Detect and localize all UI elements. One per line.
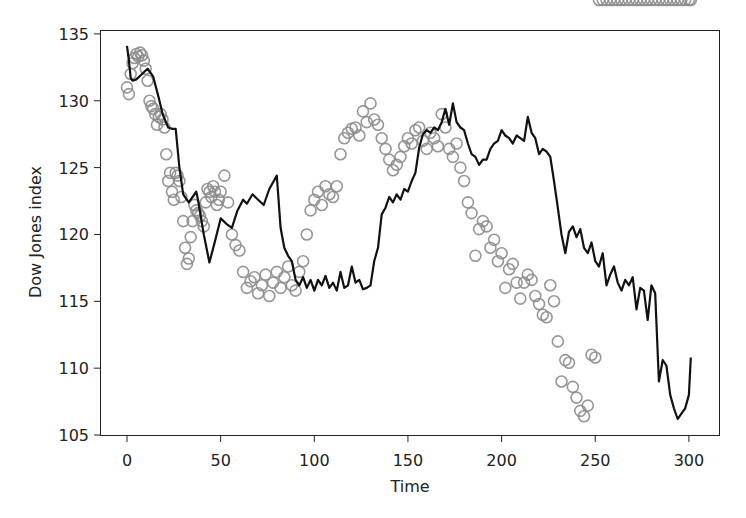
smoothed-line-path [127, 46, 691, 419]
observation-marker [123, 89, 134, 100]
x-axis-label: Time [389, 477, 429, 496]
x-axis: 050100150200250300 [122, 436, 704, 470]
observation-marker [470, 250, 481, 261]
smoothed-line [127, 46, 691, 419]
y-tick-label: 110 [58, 359, 89, 378]
observation-marker [219, 170, 230, 181]
observation-marker [552, 336, 563, 347]
observation-marker [515, 293, 526, 304]
observation-marker [271, 266, 282, 277]
observation-marker [564, 357, 575, 368]
observation-marker [567, 381, 578, 392]
observation-marker [335, 149, 346, 160]
observation-marker [380, 143, 391, 154]
observation-marker [185, 232, 196, 243]
observation-marker [264, 291, 275, 302]
observation-marker [560, 355, 571, 366]
observation-marker [590, 352, 601, 363]
x-tick-label: 50 [210, 451, 230, 470]
observation-marker [466, 208, 477, 219]
observation-marker [301, 229, 312, 240]
observation-marker [316, 200, 327, 211]
observation-marker [268, 277, 279, 288]
observation-marker [298, 256, 309, 267]
observation-marker [462, 197, 473, 208]
y-axis-label: Dow Jones index [26, 166, 45, 298]
observation-marker [455, 162, 466, 173]
y-tick-label: 105 [58, 426, 89, 445]
scatter-observations [122, 0, 697, 422]
observation-marker [459, 176, 470, 187]
observation-marker [376, 133, 387, 144]
observation-marker [549, 296, 560, 307]
line-chart: 050100150200250300 105110115120125130135… [0, 0, 746, 518]
observation-marker [545, 280, 556, 291]
x-tick-label: 0 [122, 451, 132, 470]
y-tick-label: 115 [58, 292, 89, 311]
observation-marker [586, 349, 597, 360]
observation-marker [275, 282, 286, 293]
observation-marker [331, 181, 342, 192]
observation-marker [361, 117, 372, 128]
x-tick-label: 250 [580, 451, 611, 470]
x-tick-label: 100 [299, 451, 330, 470]
observation-marker [168, 194, 179, 205]
observation-marker [500, 282, 511, 293]
observation-marker [541, 312, 552, 323]
observation-marker [238, 266, 249, 277]
y-tick-label: 130 [58, 92, 89, 111]
observation-marker [537, 309, 548, 320]
observation-marker [305, 205, 316, 216]
observation-marker [161, 149, 172, 160]
y-axis: 105110115120125130135 [58, 25, 100, 445]
observation-marker [582, 400, 593, 411]
observation-marker [328, 192, 339, 203]
observation-marker [384, 154, 395, 165]
observation-marker [122, 82, 133, 93]
observation-marker [556, 376, 567, 387]
y-tick-label: 120 [58, 225, 89, 244]
observation-marker [142, 75, 153, 86]
observation-marker [180, 242, 191, 253]
y-tick-label: 135 [58, 25, 89, 44]
x-tick-label: 200 [486, 451, 517, 470]
observation-marker [365, 98, 376, 109]
observation-marker [451, 138, 462, 149]
x-tick-label: 300 [674, 451, 705, 470]
y-tick-label: 125 [58, 159, 89, 178]
observation-marker [226, 229, 237, 240]
observation-marker [241, 282, 252, 293]
observation-marker [571, 392, 582, 403]
x-tick-label: 150 [393, 451, 424, 470]
observation-marker [414, 122, 425, 133]
observation-marker [410, 125, 421, 136]
